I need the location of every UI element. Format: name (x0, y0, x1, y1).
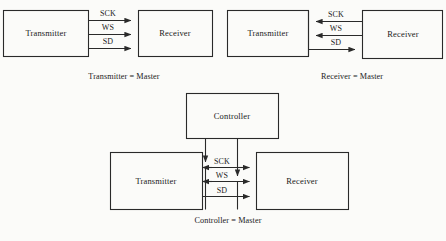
d3-sck-label: SCK (214, 157, 230, 166)
d3-sd-label: SD (217, 186, 228, 195)
d1-ws-label: WS (102, 23, 114, 32)
d3-ws-label: WS (216, 171, 228, 180)
d1-caption: Transmitter = Master (88, 72, 159, 81)
d2-transmitter-label: Transmitter (247, 28, 288, 38)
d2-ws-label: WS (330, 24, 342, 33)
d1-receiver-label: Receiver (159, 28, 190, 38)
d1-sck-label: SCK (100, 9, 116, 18)
d3-controller-label: Controller (214, 111, 250, 121)
d2-sck-label: SCK (328, 10, 344, 19)
d2-caption: Receiver = Master (321, 72, 383, 81)
d1-transmitter-label: Transmitter (25, 28, 66, 38)
i2s-master-configurations-figure: Transmitter Receiver SCK WS SD Transmitt… (0, 0, 446, 241)
d2-receiver-label: Receiver (387, 29, 418, 39)
d1-sd-label: SD (103, 37, 114, 46)
d3-receiver-label: Receiver (286, 176, 317, 186)
d3-caption: Controller = Master (194, 216, 261, 225)
d3-transmitter-label: Transmitter (135, 176, 176, 186)
d2-sd-label: SD (331, 38, 342, 47)
